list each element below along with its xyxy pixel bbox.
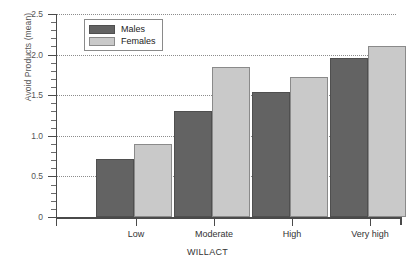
- y-axis-tick: [48, 14, 56, 15]
- x-axis-tick: [292, 219, 293, 226]
- legend-item: Males: [89, 23, 156, 35]
- y-axis-tick-label: 2.0: [3, 50, 43, 60]
- bar-females-moderate: [212, 67, 250, 217]
- bar-group: [252, 14, 332, 217]
- bar-males-moderate: [174, 111, 212, 217]
- bar-males-high: [252, 92, 290, 217]
- y-axis-tick: [48, 95, 56, 96]
- bar-group: [174, 14, 254, 217]
- bar-females-low: [134, 144, 172, 217]
- x-axis-tick: [370, 219, 371, 226]
- y-axis-title: Avoid Products (mean): [23, 0, 33, 137]
- legend-item: Females: [89, 35, 156, 47]
- x-axis-tick: [214, 219, 215, 226]
- bar-males-low: [96, 159, 134, 217]
- legend: MalesFemales: [84, 19, 163, 51]
- x-axis-label-moderate: Moderate: [195, 229, 233, 239]
- x-axis-label-high: High: [283, 229, 302, 239]
- bar-group: [330, 14, 410, 217]
- bar-females-very-high: [368, 46, 406, 217]
- y-axis-tick: [48, 136, 56, 137]
- bar-males-very-high: [330, 58, 368, 217]
- x-axis-label-low: Low: [128, 229, 145, 239]
- y-axis-tick-label: 0: [3, 212, 43, 222]
- y-axis-tick-label: 1.5: [3, 90, 43, 100]
- y-axis-tick-label: 0.5: [3, 171, 43, 181]
- legend-label: Females: [121, 36, 156, 46]
- y-axis-tick-label: 2.5: [3, 9, 43, 19]
- x-axis-tick: [136, 219, 137, 226]
- x-axis-title: WILLACT: [0, 247, 415, 257]
- bar-females-high: [290, 77, 328, 217]
- y-axis-tick: [48, 217, 56, 218]
- y-axis-tick-label: 1.0: [3, 131, 43, 141]
- x-axis-end-tick: [400, 217, 402, 225]
- x-axis-line: [56, 217, 402, 219]
- y-axis-tick: [48, 176, 56, 177]
- dark-gray-swatch: [89, 25, 115, 34]
- x-axis-start-tick: [56, 219, 57, 226]
- light-gray-swatch: [89, 37, 115, 46]
- y-axis-tick: [48, 55, 56, 56]
- legend-label: Males: [121, 24, 145, 34]
- bar-chart: Avoid Products (mean) 00.51.01.52.02.5 L…: [0, 0, 415, 277]
- x-axis-label-very-high: Very high: [351, 229, 389, 239]
